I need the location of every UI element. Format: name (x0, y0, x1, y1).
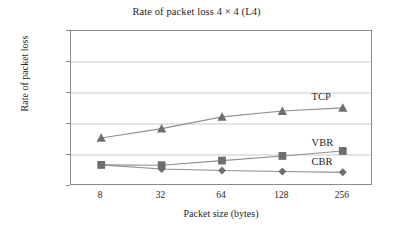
y-axis-title: Rate of packet loss (19, 4, 30, 144)
x-axis-title: Packet size (bytes) (70, 208, 372, 219)
y-tick-mark (66, 123, 70, 124)
series-label-vbr: VBR (312, 137, 334, 148)
y-tick-mark (66, 92, 70, 93)
data-point-square (279, 152, 287, 160)
data-point-diamond (218, 167, 226, 175)
data-point-square (218, 157, 226, 165)
x-tick-label: 32 (138, 190, 184, 200)
y-tick-mark (66, 61, 70, 62)
x-tick-label: 8 (77, 190, 123, 200)
series-group (97, 103, 348, 176)
data-point-diamond (339, 168, 347, 176)
x-tick-label: 64 (198, 190, 244, 200)
data-point-diamond (278, 167, 286, 175)
chart-figure: Rate of packet loss 4 × 4 (L4) Rate of p… (0, 0, 393, 230)
y-tick-mark (66, 154, 70, 155)
y-tick-mark (66, 185, 70, 186)
data-point-square (339, 147, 347, 155)
chart-title: Rate of packet loss 4 × 4 (L4) (0, 6, 393, 17)
series-label-cbr: CBR (312, 156, 333, 167)
x-tick-label: 256 (319, 190, 365, 200)
x-tick-label: 128 (258, 190, 304, 200)
y-tick-mark (66, 30, 70, 31)
series-label-tcp: TCP (312, 91, 331, 102)
